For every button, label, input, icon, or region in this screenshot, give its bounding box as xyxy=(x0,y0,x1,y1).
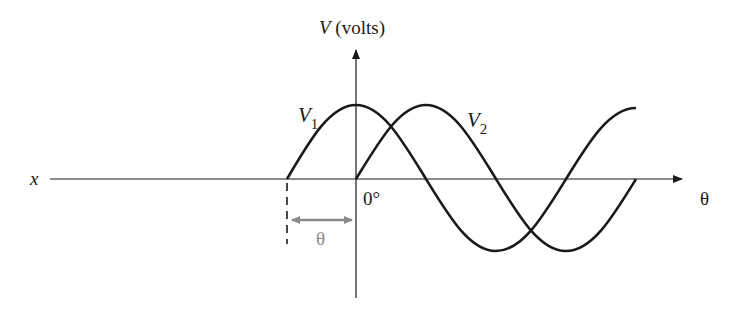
x-axis-left-label: x xyxy=(29,168,39,189)
y-axis-label: V (volts) xyxy=(319,17,385,39)
phase-label: θ xyxy=(316,228,325,249)
curve-v1-label: V1 xyxy=(298,103,318,132)
phase-diagram: V (volts) x θ 0° θ V1 V2 xyxy=(0,0,735,311)
curve-v2-label: V2 xyxy=(467,108,487,137)
origin-label: 0° xyxy=(363,188,380,209)
curve-v2 xyxy=(356,105,636,251)
x-axis-right-label: θ xyxy=(700,188,709,209)
